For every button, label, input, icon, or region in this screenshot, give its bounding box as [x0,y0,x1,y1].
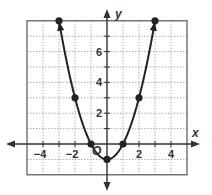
data-point [55,17,62,24]
x-axis-arrow-right-icon [191,141,200,148]
y-tick-label: 4 [96,76,103,88]
y-axis-arrow-up-icon [104,9,111,18]
x-tick-label: 2 [136,148,142,160]
x-tick-label: −2 [66,148,79,160]
x-tick-label: −4 [34,148,47,160]
x-axis-arrow-left-icon [6,141,15,148]
origin-label: O [92,144,102,158]
y-axis-arrow-down-icon [104,182,111,191]
tick-labels: −4−224246 [34,46,175,160]
data-point [119,140,126,147]
data-point [135,94,142,101]
y-axis-label: y [114,7,123,21]
x-tick-label: 4 [168,148,175,160]
parabola-graph: −4−224246 x y O [0,0,212,195]
x-axis-label: x [191,126,200,140]
y-tick-label: 6 [96,46,102,58]
y-tick-label: 2 [96,107,102,119]
data-point [103,156,110,163]
data-point [71,94,78,101]
data-point [151,17,158,24]
